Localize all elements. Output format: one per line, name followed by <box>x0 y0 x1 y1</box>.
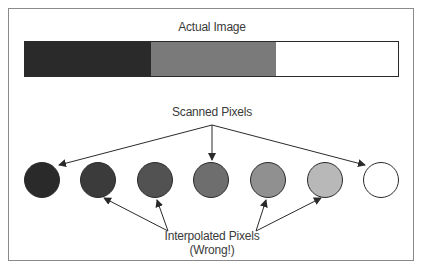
arrow-to-pixel-6 <box>256 198 321 231</box>
pixel-1 <box>25 163 60 198</box>
scanned-arrows <box>59 125 365 165</box>
arrows-and-pixels <box>0 0 421 268</box>
arrow-to-pixel-7 <box>212 125 365 165</box>
pixel-5 <box>251 163 286 198</box>
pixel-row <box>25 163 399 198</box>
pixel-6 <box>308 163 343 198</box>
interpolated-wrong-note: (Wrong!) <box>190 243 235 257</box>
arrow-to-pixel-1 <box>59 125 212 165</box>
interpolated-pixels-label: Interpolated Pixels <box>165 229 260 243</box>
pixel-4 <box>194 163 229 198</box>
interpolated-arrows <box>104 198 321 231</box>
pixel-3 <box>138 163 173 198</box>
pixel-7 <box>364 163 399 198</box>
pixel-2 <box>81 163 116 198</box>
